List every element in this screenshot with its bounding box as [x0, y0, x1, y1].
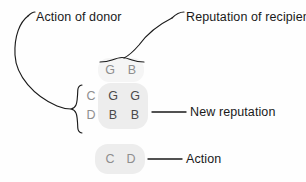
matrix-cell-0-1: G [128, 89, 142, 103]
diagram-vector-layer [0, 0, 306, 182]
diagram-canvas: Action of donor Reputation of recipient … [0, 0, 306, 182]
matrix-row-label-1: D [84, 108, 98, 122]
action-row-cell-1: D [124, 152, 138, 166]
matrix-cell-0-0: G [106, 89, 120, 103]
connector-action-of-donor [15, 16, 71, 109]
connector-reputation-of-recipient [124, 18, 172, 58]
left-brace [71, 85, 82, 133]
matrix-cell-1-0: B [106, 108, 120, 122]
matrix-column-header-0: G [103, 63, 117, 77]
matrix-row-label-0: C [84, 89, 98, 103]
matrix-column-header-1: B [125, 63, 139, 77]
action-row-cell-0: C [103, 152, 117, 166]
label-action: Action [186, 152, 221, 166]
leader-reputation-tick [172, 12, 184, 18]
label-new-reputation: New reputation [190, 105, 275, 119]
label-reputation-of-recipient: Reputation of recipient [186, 10, 306, 24]
matrix-cell-1-1: B [128, 108, 142, 122]
leader-action-of-donor-tick [28, 12, 35, 16]
label-action-of-donor: Action of donor [36, 10, 122, 24]
